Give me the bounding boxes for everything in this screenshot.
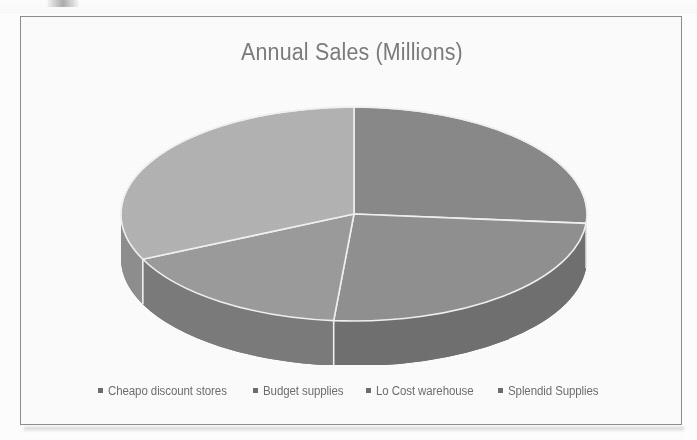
legend-item-label-4: Splendid Supplies (508, 384, 599, 398)
chart-legend[interactable]: Cheapo discount storesBudget suppliesLo … (21, 384, 683, 398)
frame-drop-shadow (24, 427, 684, 432)
legend-item-label-2: Budget supplies (263, 384, 343, 398)
legend-swatch-icon-1 (98, 388, 103, 393)
legend-item-2[interactable]: Budget supplies (253, 384, 350, 398)
chart-frame[interactable]: Annual Sales (Millions) Cheapo discount … (20, 16, 682, 425)
legend-swatch-icon-3 (366, 388, 371, 393)
pie-3d-group: Cheapo discount storesBudget suppliesLo … (121, 107, 587, 365)
legend-item-4[interactable]: Splendid Supplies (498, 384, 606, 398)
legend-item-1[interactable]: Cheapo discount stores (98, 384, 237, 398)
pie-slice-1[interactable]: Cheapo discount stores (354, 107, 587, 223)
legend-swatch-icon-4 (498, 388, 503, 393)
page-top-margin (0, 0, 697, 14)
legend-item-label-1: Cheapo discount stores (108, 384, 227, 398)
chart-title: Annual Sales (Millions) (44, 39, 660, 66)
legend-item-label-3: Lo Cost warehouse (376, 384, 474, 398)
legend-swatch-icon-2 (253, 388, 258, 393)
pie-chart-svg[interactable]: Cheapo discount storesBudget suppliesLo … (21, 75, 683, 365)
scan-artifact-mark (46, 0, 80, 7)
legend-item-3[interactable]: Lo Cost warehouse (366, 384, 482, 398)
pie-chart-plot-area[interactable]: Cheapo discount storesBudget suppliesLo … (21, 75, 683, 365)
